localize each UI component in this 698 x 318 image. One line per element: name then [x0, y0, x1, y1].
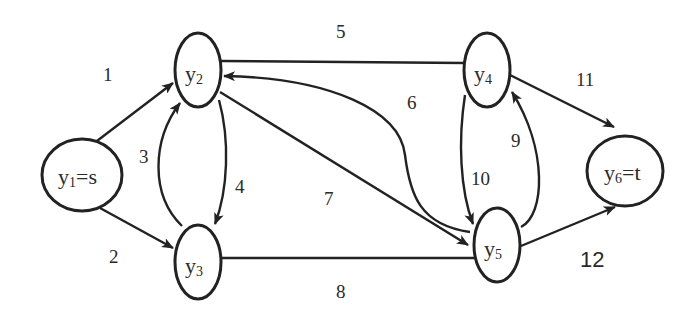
- edge-label-4: 4: [235, 176, 245, 197]
- edge-12: [521, 207, 615, 246]
- svg-text:y6=t: y6=t: [604, 160, 641, 186]
- edge-9: [512, 92, 539, 227]
- svg-text:y1=s: y1=s: [58, 164, 97, 190]
- edge-label-5: 5: [336, 21, 346, 42]
- node-y1: y1=s: [42, 139, 122, 211]
- node-y4: y4: [464, 33, 510, 107]
- edge-1: [93, 83, 173, 144]
- node-y5: y5: [474, 208, 520, 282]
- node-y2: y2: [175, 33, 221, 107]
- edge-label-8: 8: [336, 281, 346, 302]
- edge-5: [221, 61, 465, 63]
- edge-label-7: 7: [324, 188, 334, 209]
- edge-label-1: 1: [103, 64, 113, 85]
- node-y6: y6=t: [587, 136, 663, 206]
- edge-2: [100, 208, 173, 248]
- network-diagram: y1=s y2 y3 y4 y5 y6=t 1 2 3 4 5 6 7 8: [0, 0, 698, 318]
- edge-label-2: 2: [109, 246, 119, 267]
- edge-3: [159, 103, 183, 226]
- edge-label-3: 3: [139, 146, 149, 167]
- edge-label-10: 10: [471, 168, 490, 189]
- edge-4: [215, 100, 226, 224]
- edge-label-9: 9: [511, 130, 521, 151]
- edge-label-12: 12: [580, 247, 604, 272]
- edge-label-11: 11: [576, 69, 594, 90]
- edge-label-6: 6: [407, 92, 417, 113]
- node-y3: y3: [175, 225, 221, 299]
- edges: [93, 61, 615, 258]
- edge-10: [461, 95, 473, 224]
- edge-7: [220, 92, 468, 245]
- edge-6: [224, 76, 470, 232]
